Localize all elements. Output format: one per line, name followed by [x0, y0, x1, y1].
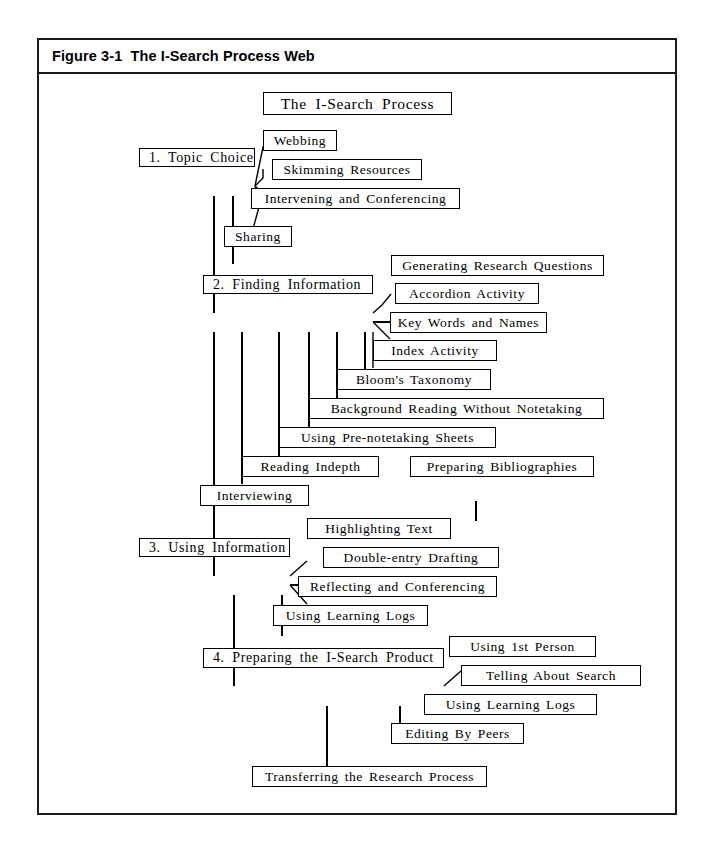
process-web-diagram: The I-Search Process 1. Topic Choice Web…	[39, 74, 675, 815]
node-stage-1-topic-choice[interactable]: 1. Topic Choice	[139, 148, 255, 167]
node-sharing[interactable]: Sharing	[224, 226, 292, 247]
node-skimming-resources[interactable]: Skimming Resources	[272, 159, 422, 180]
node-using-pre-notetaking-sheets[interactable]: Using Pre-notetaking Sheets	[279, 427, 496, 448]
node-using-learning-logs-stage3[interactable]: Using Learning Logs	[273, 605, 428, 626]
node-intervening-and-conferencing[interactable]: Intervening and Conferencing	[251, 188, 460, 209]
node-stage-2-finding-information[interactable]: 2. Finding Information	[203, 275, 373, 294]
node-using-1st-person[interactable]: Using 1st Person	[449, 636, 596, 657]
node-highlighting-text[interactable]: Highlighting Text	[307, 518, 451, 539]
node-generating-research-questions[interactable]: Generating Research Questions	[391, 255, 604, 276]
node-background-reading-without-notetaking[interactable]: Background Reading Without Notetaking	[309, 398, 604, 419]
figure-title: Figure 3-1 The I-Search Process Web	[52, 48, 315, 64]
node-accordion-activity[interactable]: Accordion Activity	[395, 283, 539, 304]
node-index-activity[interactable]: Index Activity	[373, 340, 497, 361]
figure-header: Figure 3-1 The I-Search Process Web	[39, 40, 675, 74]
node-reading-indepth[interactable]: Reading Indepth	[242, 456, 379, 477]
node-stage-3-using-information[interactable]: 3. Using Information	[139, 538, 290, 557]
node-preparing-bibliographies[interactable]: Preparing Bibliographies	[410, 456, 594, 477]
node-interviewing[interactable]: Interviewing	[200, 485, 309, 506]
node-transferring-the-research-process[interactable]: Transferring the Research Process	[252, 766, 487, 787]
node-stage-4-preparing-the-i-search-product[interactable]: 4. Preparing the I-Search Product	[203, 648, 444, 668]
node-the-i-search-process[interactable]: The I-Search Process	[263, 92, 452, 115]
node-editing-by-peers[interactable]: Editing By Peers	[391, 723, 524, 744]
node-reflecting-and-conferencing[interactable]: Reflecting and Conferencing	[298, 576, 497, 597]
node-webbing[interactable]: Webbing	[263, 130, 337, 151]
figure-frame: Figure 3-1 The I-Search Process Web	[37, 38, 677, 815]
node-telling-about-search[interactable]: Telling About Search	[461, 665, 641, 686]
node-using-learning-logs-stage4[interactable]: Using Learning Logs	[424, 694, 597, 715]
node-double-entry-drafting[interactable]: Double-entry Drafting	[323, 547, 499, 568]
node-key-words-and-names[interactable]: Key Words and Names	[390, 312, 547, 333]
node-blooms-taxonomy[interactable]: Bloom's Taxonomy	[337, 369, 491, 390]
